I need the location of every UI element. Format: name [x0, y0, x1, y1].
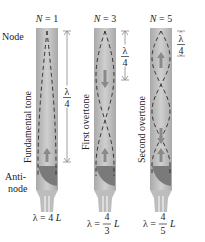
wavelength-formula-length: L [113, 218, 120, 229]
pipe-1: N = 1Fundamental toneλ4λ = 4 L [22, 13, 72, 223]
quarter-wavelength-denominator: 4 [179, 45, 184, 56]
wavelength-formula-prefix: λ = [143, 218, 156, 229]
quarter-wavelength-denominator: 4 [123, 57, 128, 68]
organ-pipe-diagram: Node Anti- node N = 1Fundamental toneλ4λ… [0, 0, 205, 242]
wavelength-formula: λ = 4 L [33, 212, 62, 223]
pipe-foot [94, 190, 116, 212]
pipe-body [36, 28, 58, 190]
quarter-wavelength-denominator: 4 [65, 98, 70, 109]
mode-number-label: N = 5 [149, 13, 172, 24]
wavelength-fraction-numerator: 4 [161, 211, 166, 222]
pipe-foot [36, 190, 58, 212]
airflow-up-arrow [46, 153, 49, 162]
airflow-up-arrow [160, 153, 163, 162]
pipe-foot [150, 190, 172, 212]
wavelength-fraction-denominator: 5 [161, 225, 166, 236]
wavelength-fraction-denominator: 3 [105, 225, 110, 236]
mode-name-label: First overtone [80, 94, 91, 150]
mode-number-label: N = 1 [35, 13, 58, 24]
wavelength-fraction-numerator: 4 [105, 211, 110, 222]
pipe-3: N = 5Second overtoneλ4λ =45L [136, 13, 186, 236]
airflow-down-arrow [104, 70, 107, 83]
quarter-wavelength-numerator: λ [179, 33, 184, 44]
quarter-wavelength-numerator: λ [65, 86, 70, 97]
antinode-label-line1: Anti- [5, 171, 26, 182]
mode-name-label: Fundamental tone [22, 91, 33, 163]
quarter-wavelength-numerator: λ [123, 45, 128, 56]
node-label: Node [2, 31, 24, 42]
wavelength-formula-length: L [169, 218, 176, 229]
airflow-up-arrow [104, 153, 107, 162]
pipe-2: N = 3First overtoneλ4λ =43L [80, 13, 130, 236]
pipes-group: N = 1Fundamental toneλ4λ = 4 LN = 3First… [22, 13, 186, 236]
airflow-up-arrow [160, 57, 163, 68]
wavelength-formula-prefix: λ = [87, 218, 100, 229]
airflow-down-arrow [160, 128, 163, 139]
mode-number-label: N = 3 [93, 13, 116, 24]
pipe-body [94, 28, 116, 190]
antinode-label-line2: node [8, 183, 28, 194]
mode-name-label: Second overtone [136, 96, 147, 163]
